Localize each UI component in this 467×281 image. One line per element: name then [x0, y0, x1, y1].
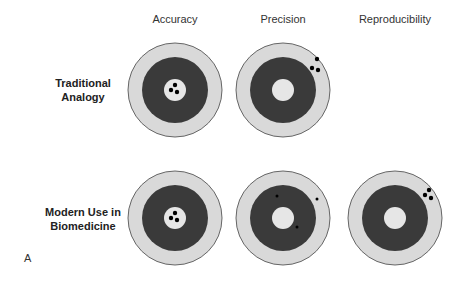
shot-dot	[173, 83, 177, 87]
shot-dot	[315, 57, 319, 61]
shot-dot	[175, 90, 179, 94]
shot-dot	[169, 216, 173, 220]
shot-dot	[296, 226, 299, 229]
target-bullseye	[272, 207, 294, 229]
targets-diagram	[0, 0, 467, 281]
target-bullseye	[384, 207, 406, 229]
shot-dot	[173, 211, 177, 215]
target-0-1	[236, 43, 330, 137]
shot-dot	[427, 188, 431, 192]
shot-dot	[169, 88, 173, 92]
shot-dot	[316, 68, 320, 72]
shot-dot	[310, 66, 314, 70]
target-bullseye	[164, 79, 186, 101]
shot-dot	[175, 218, 179, 222]
target-bullseye	[164, 207, 186, 229]
shot-dot	[276, 195, 279, 198]
target-1-1	[236, 171, 330, 265]
target-1-2	[348, 171, 442, 265]
target-1-0	[128, 171, 222, 265]
shot-dot	[316, 198, 319, 201]
shot-dot	[423, 193, 427, 197]
target-bullseye	[272, 79, 294, 101]
shot-dot	[429, 196, 433, 200]
target-0-0	[128, 43, 222, 137]
